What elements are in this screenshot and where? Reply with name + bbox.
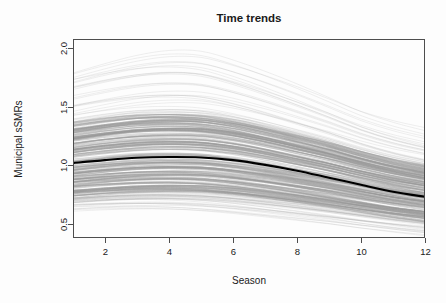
- x-tick-label: 12: [420, 246, 431, 257]
- x-tick-label: 10: [356, 246, 367, 257]
- y-tick-label: 2.0: [58, 42, 69, 55]
- time-trends-plot: 24681012 0.51.01.52.0 Time trends Season…: [0, 0, 446, 303]
- x-tick-label: 6: [231, 246, 236, 257]
- x-axis-title: Season: [232, 275, 266, 286]
- chart-container: 24681012 0.51.01.52.0 Time trends Season…: [0, 0, 446, 303]
- chart-title: Time trends: [217, 12, 282, 24]
- y-tick-label: 1.5: [58, 101, 69, 114]
- x-tick-label: 8: [295, 246, 300, 257]
- x-tick-label: 2: [103, 246, 108, 257]
- y-tick-label: 1.0: [58, 159, 69, 172]
- y-tick-label: 0.5: [58, 218, 69, 231]
- y-axis-title: Municipal sSMRs: [13, 100, 24, 177]
- x-tick-label: 4: [167, 246, 172, 257]
